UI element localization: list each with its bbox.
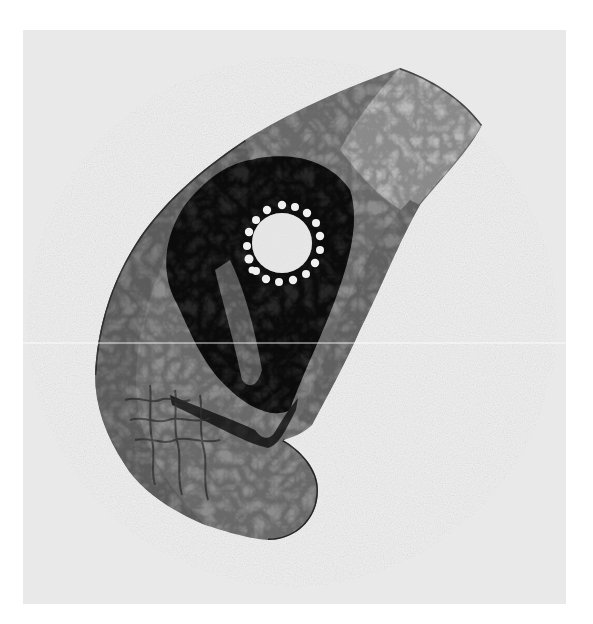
tissue-section-image (0, 0, 593, 624)
